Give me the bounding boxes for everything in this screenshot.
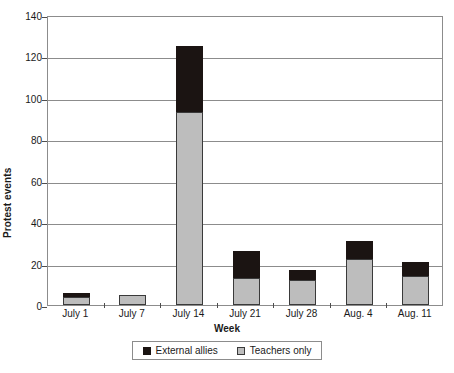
bar-segment-teachers-only bbox=[176, 112, 203, 305]
bar-segment-teachers-only bbox=[233, 278, 260, 305]
y-axis-tick-labels: 020406080100120140 bbox=[0, 16, 42, 306]
bar-segment-external-allies bbox=[233, 251, 260, 278]
y-axis-tick bbox=[42, 17, 47, 18]
y-axis-tick bbox=[42, 100, 47, 101]
chart-legend: External allies Teachers only bbox=[132, 341, 322, 360]
y-axis-tick bbox=[42, 58, 47, 59]
gray-square-icon bbox=[237, 347, 245, 355]
bar-segment-external-allies bbox=[176, 46, 203, 112]
y-axis-tick bbox=[42, 183, 47, 184]
bar-chart: Protest events 020406080100120140 July 1… bbox=[0, 0, 454, 373]
plot-area bbox=[47, 16, 443, 306]
x-axis-title: Week bbox=[0, 323, 454, 334]
bar-group bbox=[402, 15, 429, 305]
y-axis-tick-label: 40 bbox=[31, 218, 42, 229]
x-axis-tick-label: July 28 bbox=[286, 308, 318, 319]
y-axis-tick bbox=[42, 266, 47, 267]
bar-segment-external-allies bbox=[346, 241, 373, 260]
y-axis-tick-label: 20 bbox=[31, 259, 42, 270]
y-axis-tick-label: 0 bbox=[36, 301, 42, 312]
bar-group bbox=[119, 15, 146, 305]
bar-segment-teachers-only bbox=[63, 297, 90, 305]
bar-segment-external-allies bbox=[289, 270, 316, 280]
x-axis-tick-labels: July 1July 7July 14July 21July 28Aug. 4A… bbox=[47, 308, 443, 324]
y-axis-tick-label: 80 bbox=[31, 135, 42, 146]
y-axis-tick bbox=[42, 224, 47, 225]
y-axis-tick-label: 100 bbox=[25, 93, 42, 104]
bar-segment-external-allies bbox=[402, 262, 429, 277]
x-axis-tick bbox=[273, 303, 274, 308]
legend-item-external-allies: External allies bbox=[143, 345, 218, 356]
y-axis-tick-label: 120 bbox=[25, 52, 42, 63]
y-axis-tick-label: 60 bbox=[31, 176, 42, 187]
x-axis-tick-label: Aug. 11 bbox=[398, 308, 432, 319]
x-axis-tick-label: July 7 bbox=[119, 308, 145, 319]
bar-group bbox=[63, 15, 90, 305]
legend-item-teachers-only: Teachers only bbox=[237, 345, 312, 356]
x-axis-tick bbox=[386, 303, 387, 308]
x-axis-tick bbox=[330, 303, 331, 308]
bar-group bbox=[289, 15, 316, 305]
x-axis-tick-label: July 21 bbox=[229, 308, 261, 319]
black-square-icon bbox=[143, 347, 151, 355]
bar-segment-teachers-only bbox=[289, 280, 316, 305]
x-axis-tick bbox=[104, 303, 105, 308]
x-axis-tick-label: Aug. 4 bbox=[344, 308, 373, 319]
bar-group bbox=[233, 15, 260, 305]
bar-segment-teachers-only bbox=[346, 259, 373, 305]
bar-segment-teachers-only bbox=[402, 276, 429, 305]
bar-group bbox=[176, 15, 203, 305]
bar-segment-teachers-only bbox=[119, 295, 146, 305]
legend-label-external-allies: External allies bbox=[156, 345, 218, 356]
x-axis-tick-label: July 1 bbox=[62, 308, 88, 319]
y-axis-tick-label: 140 bbox=[25, 11, 42, 22]
y-axis-tick bbox=[42, 141, 47, 142]
x-axis-tick-label: July 14 bbox=[173, 308, 205, 319]
legend-label-teachers-only: Teachers only bbox=[250, 345, 312, 356]
x-axis-tick bbox=[160, 303, 161, 308]
bar-group bbox=[346, 15, 373, 305]
bar-segment-external-allies bbox=[63, 293, 90, 297]
bars-container bbox=[48, 17, 442, 305]
x-axis-tick bbox=[217, 303, 218, 308]
